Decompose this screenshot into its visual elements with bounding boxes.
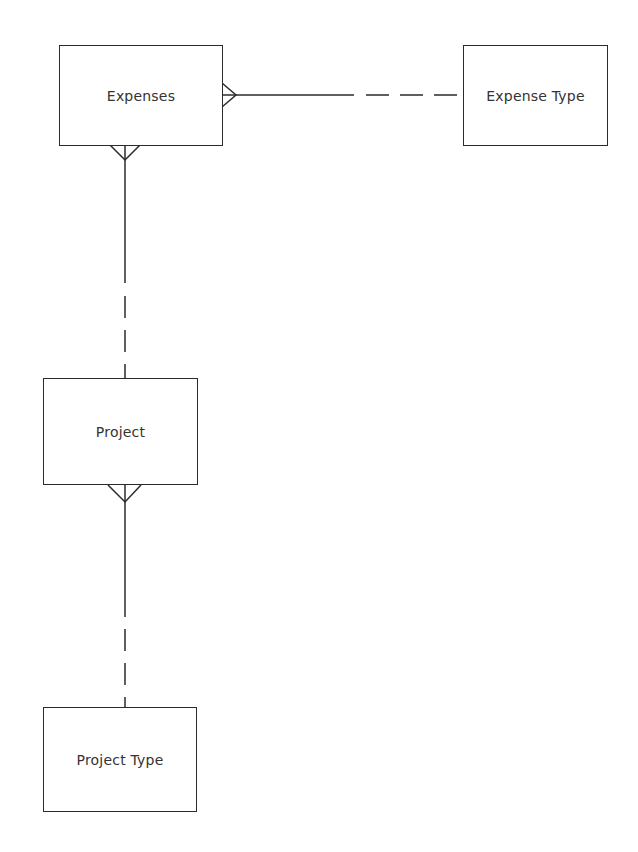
entity-label-expense-type: Expense Type xyxy=(486,88,584,104)
entity-expenses[interactable]: Expenses xyxy=(59,45,223,146)
relationship-expenses-expense-type xyxy=(222,83,463,107)
entity-label-project: Project xyxy=(96,424,145,440)
er-diagram-canvas: Expenses Expense Type Project Project Ty… xyxy=(0,0,638,852)
entity-project[interactable]: Project xyxy=(43,378,198,485)
relationship-project-project-type xyxy=(108,485,141,707)
entity-label-project-type: Project Type xyxy=(77,752,164,768)
relationship-expenses-project xyxy=(110,145,140,378)
entity-project-type[interactable]: Project Type xyxy=(43,707,197,812)
entity-expense-type[interactable]: Expense Type xyxy=(463,45,608,146)
entity-label-expenses: Expenses xyxy=(107,88,175,104)
